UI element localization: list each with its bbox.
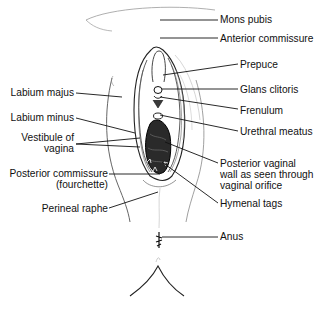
mons-pubis-contour (86, 7, 215, 20)
urethral-meatus-shape (154, 113, 163, 119)
label-vestibule-line1: Vestibule of (21, 132, 74, 143)
label-urethral-meatus: Urethral meatus (240, 126, 312, 137)
label-labium-minus: Labium minus (11, 112, 74, 123)
label-vestibule-of-vagina: Vestibule of vagina (21, 132, 74, 154)
perineal-raphe-line (159, 188, 160, 228)
label-posterior-vaginal-wall-line2: wall as seen through (220, 169, 313, 180)
label-frenulum: Frenulum (240, 105, 283, 116)
gluteal-cleft (130, 266, 184, 296)
label-anus: Anus (220, 231, 243, 242)
label-glans-clitoris: Glans clitoris (240, 84, 298, 95)
label-posterior-vaginal-wall-line3: vaginal orifice (220, 180, 313, 191)
label-posterior-commissure-line2: (fourchette) (9, 179, 108, 190)
label-prepuce: Prepuce (240, 59, 278, 70)
label-posterior-commissure: Posterior commissure (fourchette) (9, 168, 108, 190)
vulva-anatomy-diagram: Mons pubis Anterior commissure Prepuce G… (0, 0, 319, 311)
label-mons-pubis: Mons pubis (220, 14, 272, 25)
label-posterior-vaginal-wall: Posterior vaginal wall as seen through v… (220, 158, 313, 191)
label-posterior-commissure-line1: Posterior commissure (9, 168, 108, 179)
label-posterior-vaginal-wall-line1: Posterior vaginal (220, 158, 313, 169)
labium-majus-left-contour (107, 78, 130, 222)
label-vestibule-line2: vagina (21, 143, 74, 154)
anatomy-illustration (0, 0, 319, 311)
label-hymenal-tags: Hymenal tags (220, 198, 282, 209)
label-labium-majus: Labium majus (11, 87, 74, 98)
glans-clitoris-shape (154, 87, 162, 94)
label-perineal-raphe: Perineal raphe (42, 203, 108, 214)
label-anterior-commissure: Anterior commissure (220, 33, 313, 44)
anus-shape (156, 232, 162, 248)
